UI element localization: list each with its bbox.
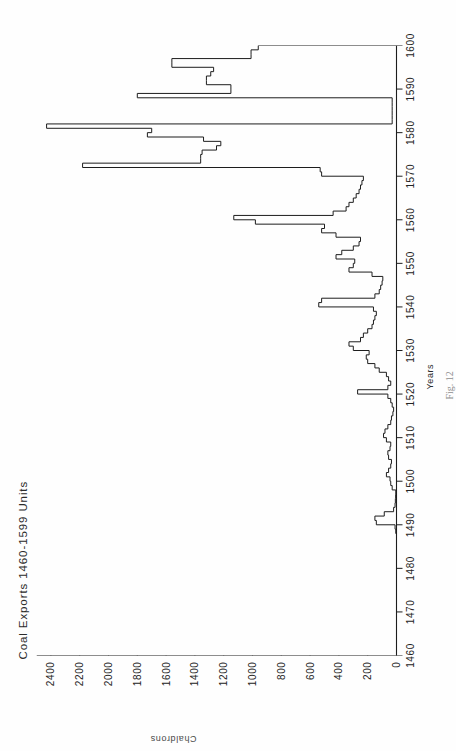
data-series-outline: [46, 45, 396, 655]
y-tick-label: 2400: [45, 661, 56, 686]
plot-area: [36, 45, 396, 655]
figure-caption: Fig. 12: [443, 371, 454, 399]
y-tick-label: 600: [304, 661, 315, 680]
y-tick-label: 200: [362, 661, 373, 680]
y-axis-title: Chaldrons: [150, 733, 196, 743]
axis-lines: [36, 45, 402, 655]
y-tick-label: 2000: [103, 661, 114, 686]
y-tick-label: 800: [275, 661, 286, 680]
rotated-figure-stage: Coal Exports 1460-1599 Units Years Chald…: [0, 0, 456, 751]
y-tick-label: 1400: [189, 661, 200, 686]
step-chart-svg: [36, 45, 436, 655]
y-tick-label: 2200: [74, 661, 85, 686]
y-axis-tick-labels: 0200400600800100012001400160018002000220…: [36, 661, 396, 705]
figure-page: Coal Exports 1460-1599 Units Years Chald…: [0, 0, 456, 751]
y-tick-label: 1800: [131, 661, 142, 686]
y-tick-label: 1200: [218, 661, 229, 686]
y-tick-label: 400: [333, 661, 344, 680]
y-tick-label: 1000: [247, 661, 258, 686]
y-tick-label: 1600: [160, 661, 171, 686]
y-tick-label: 0: [391, 661, 402, 667]
